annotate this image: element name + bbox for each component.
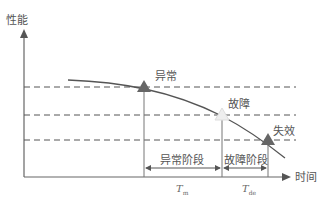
- x-axis-label: 时间: [295, 171, 317, 184]
- anomaly-phase-label: 异常阶段: [160, 153, 204, 167]
- x-axis: [24, 173, 291, 181]
- anomaly-label: 异常: [155, 70, 177, 83]
- performance-degradation-diagram: 性能 时间 异常 故障 失效 异常阶段 故障阶段 Tm Tde: [0, 0, 331, 204]
- anomaly-duration-label: Tm: [176, 183, 189, 196]
- performance-curve: [68, 80, 285, 158]
- failure-label: 失效: [273, 124, 295, 138]
- y-axis: [20, 29, 28, 177]
- threshold-lines: [24, 87, 296, 140]
- fault-phase-label: 故障阶段: [224, 153, 268, 167]
- fault-duration-label: Tde: [242, 183, 257, 196]
- fault-label: 故障: [228, 97, 250, 111]
- y-axis-label: 性能: [6, 13, 28, 27]
- anomaly-marker-icon: [137, 80, 151, 92]
